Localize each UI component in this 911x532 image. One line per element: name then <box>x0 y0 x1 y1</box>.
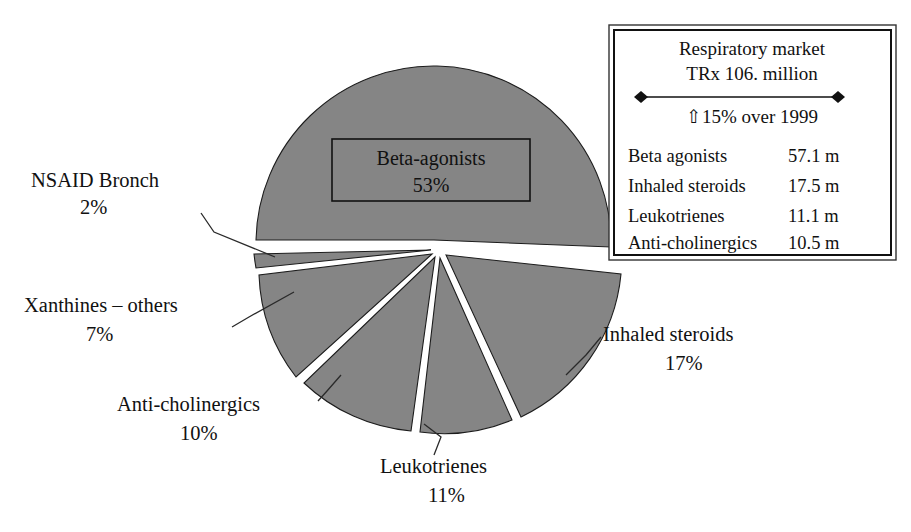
legend-box: Respiratory market TRx 106. million ⇧15%… <box>609 25 896 260</box>
label-xanthines-name: Xanthines – others <box>24 294 178 316</box>
legend-row-label-2: Leukotrienes <box>628 206 725 226</box>
beta-agonists-label-pct: 53% <box>413 174 450 196</box>
beta-agonists-label-name: Beta-agonists <box>377 147 486 170</box>
legend-growth-text: ⇧15% over 1999 <box>686 106 818 127</box>
label-leukotrienes-name: Leukotrienes <box>380 455 487 477</box>
label-anti-cholinergics-name: Anti-cholinergics <box>117 393 260 416</box>
label-xanthines-pct: 7% <box>86 323 113 345</box>
legend-title-line1: Respiratory market <box>679 38 826 59</box>
label-anti-cholinergics-pct: 10% <box>180 422 218 444</box>
legend-title-line2: TRx 106. million <box>686 63 818 84</box>
label-inhaled-steroids-pct: 17% <box>665 352 703 374</box>
pie-chart-figure: Beta-agonists 53% NSAID Bronch 2% Xanthi… <box>0 0 911 532</box>
legend-row-value-2: 11.1 m <box>788 206 839 226</box>
label-nsaid-bronch-pct: 2% <box>80 196 107 218</box>
legend-row-label-3: Anti-cholinergics <box>628 233 757 253</box>
legend-row-value-3: 10.5 m <box>788 233 840 253</box>
legend-row-label-1: Inhaled steroids <box>628 176 746 196</box>
legend-row-value-1: 17.5 m <box>788 176 840 196</box>
legend-row-value-0: 57.1 m <box>788 146 840 166</box>
label-inhaled-steroids-name: Inhaled steroids <box>603 323 733 345</box>
chart-canvas: Beta-agonists 53% NSAID Bronch 2% Xanthi… <box>0 0 911 532</box>
legend-row-label-0: Beta agonists <box>628 146 727 166</box>
label-leukotrienes-pct: 11% <box>428 484 465 506</box>
label-nsaid-bronch-name: NSAID Bronch <box>31 169 159 191</box>
